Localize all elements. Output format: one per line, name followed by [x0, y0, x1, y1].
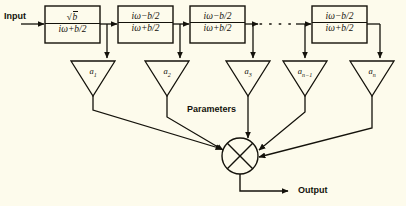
transfer-function-block-2: iω−b/2 iω+b/2: [118, 11, 173, 34]
summing-node: [222, 138, 258, 174]
block-diagram-figure: Input Output Parameters √b iω+b/2 iω−b/2…: [0, 0, 406, 206]
block-1-numerator: √b: [45, 11, 100, 24]
gain-label-4: an−1: [285, 66, 325, 78]
block-2-denominator: iω+b/2: [118, 23, 173, 34]
gain-label-1: a1: [73, 66, 113, 78]
block-4-denominator: iω+b/2: [312, 23, 367, 34]
block-2-numerator: iω−b/2: [118, 11, 173, 23]
block-3-numerator: iω−b/2: [190, 11, 245, 23]
gain-label-5: an: [352, 66, 392, 78]
transfer-function-block-4: iω−b/2 iω+b/2: [312, 11, 367, 34]
output-label: Output: [298, 185, 328, 195]
block-3-denominator: iω+b/2: [190, 23, 245, 34]
parameters-label: Parameters: [187, 104, 236, 114]
output-path: [240, 174, 288, 191]
transfer-function-block-3: iω−b/2 iω+b/2: [190, 11, 245, 34]
block-4-numerator: iω−b/2: [312, 11, 367, 23]
block-1-denominator: iω+b/2: [45, 24, 100, 35]
gain-label-3: a3: [228, 66, 268, 78]
gain-label-2: a2: [147, 66, 187, 78]
transfer-function-block-1: √b iω+b/2: [45, 11, 100, 35]
input-label: Input: [4, 11, 26, 21]
